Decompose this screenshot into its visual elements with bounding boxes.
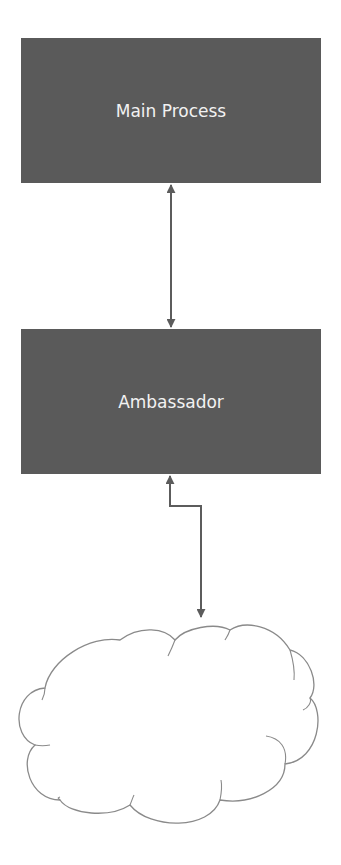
cloud-shape xyxy=(19,625,318,823)
diagram-connectors xyxy=(0,0,341,865)
elbow-arrow-ambassador-cloud xyxy=(170,476,201,617)
